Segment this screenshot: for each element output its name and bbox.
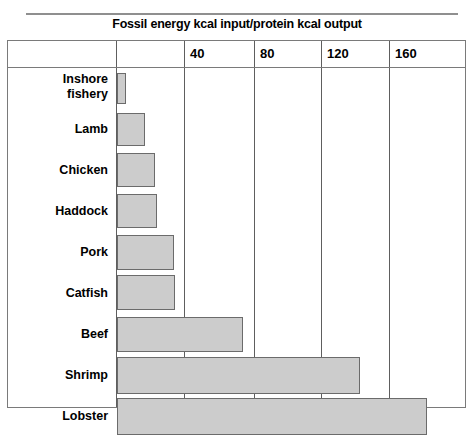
category-label-chicken: Chicken	[8, 163, 108, 177]
category-label-beef: Beef	[8, 327, 108, 341]
bar-row: Haddock	[8, 191, 465, 232]
category-label-haddock: Haddock	[8, 204, 108, 218]
category-label-inshore-fishery: Inshorefishery	[8, 72, 108, 102]
axis-tick-label-120: 120	[327, 45, 349, 63]
category-label-pork: Pork	[8, 245, 108, 259]
category-label-lamb: Lamb	[8, 122, 108, 136]
axis-tick-label-160: 160	[395, 45, 417, 63]
bar-inshore-fishery	[117, 73, 126, 104]
bar-row: Pork	[8, 232, 465, 273]
bar-lamb	[117, 113, 145, 146]
chart-title: Fossil energy kcal input/protein kcal ou…	[0, 17, 474, 31]
bar-shrimp	[117, 357, 360, 394]
axis-header: 40 80 120 160	[8, 41, 465, 68]
bar-row: Inshorefishery	[8, 68, 465, 110]
bar-lobster	[117, 398, 427, 435]
axis-tick-label-40: 40	[190, 45, 204, 63]
bar-row: Chicken	[8, 150, 465, 191]
category-label-line1: Inshore	[63, 72, 108, 86]
bar-haddock	[117, 194, 157, 228]
bar-catfish	[117, 275, 175, 310]
category-label-shrimp: Shrimp	[8, 368, 108, 382]
title-top-rule	[26, 13, 458, 15]
category-label-line2: fishery	[67, 87, 108, 101]
plot-frame: 40 80 120 160 Inshorefishery Lamb Chicke…	[7, 40, 466, 408]
axis-tick-label-80: 80	[260, 45, 274, 63]
bar-pork	[117, 235, 174, 270]
category-label-lobster: Lobster	[8, 409, 108, 423]
bar-row: Lamb	[8, 110, 465, 150]
bar-row: Shrimp	[8, 355, 465, 396]
bar-beef	[117, 317, 243, 352]
bar-chicken	[117, 153, 155, 187]
bar-row: Catfish	[8, 273, 465, 314]
bar-row: Lobster	[8, 396, 465, 438]
category-label-catfish: Catfish	[8, 286, 108, 300]
bar-row: Beef	[8, 314, 465, 355]
plot-body: Inshorefishery Lamb Chicken Haddock Pork	[8, 68, 465, 407]
